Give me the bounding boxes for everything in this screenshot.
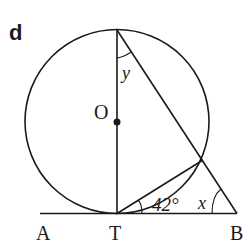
point-label-B: B: [230, 222, 243, 244]
part-label: d: [9, 20, 22, 45]
secant-line-to-B: [117, 30, 237, 214]
point-label-T: T: [109, 222, 121, 244]
angle-label-y: y: [120, 63, 130, 83]
point-label-O: O: [94, 101, 108, 123]
angle-arc-x: [212, 189, 221, 214]
point-label-A: A: [36, 222, 51, 244]
angle-label-x: x: [197, 193, 206, 213]
angle-arc-y: [117, 52, 131, 58]
center-point-O: [114, 119, 121, 126]
geometry-diagram: d y O 42° x A T B: [0, 0, 248, 245]
angle-label-42: 42°: [152, 194, 179, 215]
